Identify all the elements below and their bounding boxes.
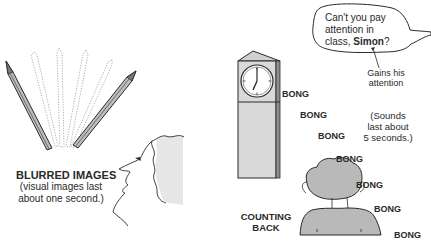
annotation-line-1: Gains his xyxy=(361,68,411,78)
bong-label: BONG xyxy=(374,204,401,214)
gains-attention-annotation: Gains his attention xyxy=(361,68,411,89)
bong-label: BONG xyxy=(300,110,327,120)
speech-line-3-prefix: class, xyxy=(325,36,353,47)
bong-label: BONG xyxy=(394,230,421,240)
caption-line-2: about one second.) xyxy=(18,193,104,205)
face-profile-icon xyxy=(113,136,184,226)
clock-tower-icon xyxy=(238,51,280,178)
sound-duration-note: (Sounds last about 5 seconds.) xyxy=(358,111,418,144)
boy-back-of-head-icon xyxy=(300,158,381,235)
bong-label: BONG xyxy=(356,180,383,190)
pencil-icon xyxy=(73,71,136,148)
speech-line-3: class, Simon? xyxy=(325,36,389,48)
pencil-icon xyxy=(6,61,52,150)
counting-back-label: COUNTING BACK xyxy=(236,212,296,234)
speech-name-simon: Simon xyxy=(353,36,384,47)
annotation-line-2: attention xyxy=(361,78,411,88)
blurred-images-title: BLURRED IMAGES xyxy=(16,169,116,182)
bong-label: BONG xyxy=(282,89,309,99)
sound-note-line-3: 5 seconds.) xyxy=(358,133,418,144)
counting-back-line-2: BACK xyxy=(236,223,296,234)
speech-line-3-suffix: ? xyxy=(384,36,390,47)
speech-bubble-text: Can't you pay attention in class, Simon? xyxy=(325,12,389,48)
blurred-images-caption: (visual images last about one second.) xyxy=(18,181,104,204)
bong-label: BONG xyxy=(336,154,363,164)
bong-label: BONG xyxy=(318,131,345,141)
speech-line-2: attention in xyxy=(325,24,389,36)
caption-line-1: (visual images last xyxy=(18,181,104,193)
speech-line-1: Can't you pay xyxy=(325,12,389,24)
